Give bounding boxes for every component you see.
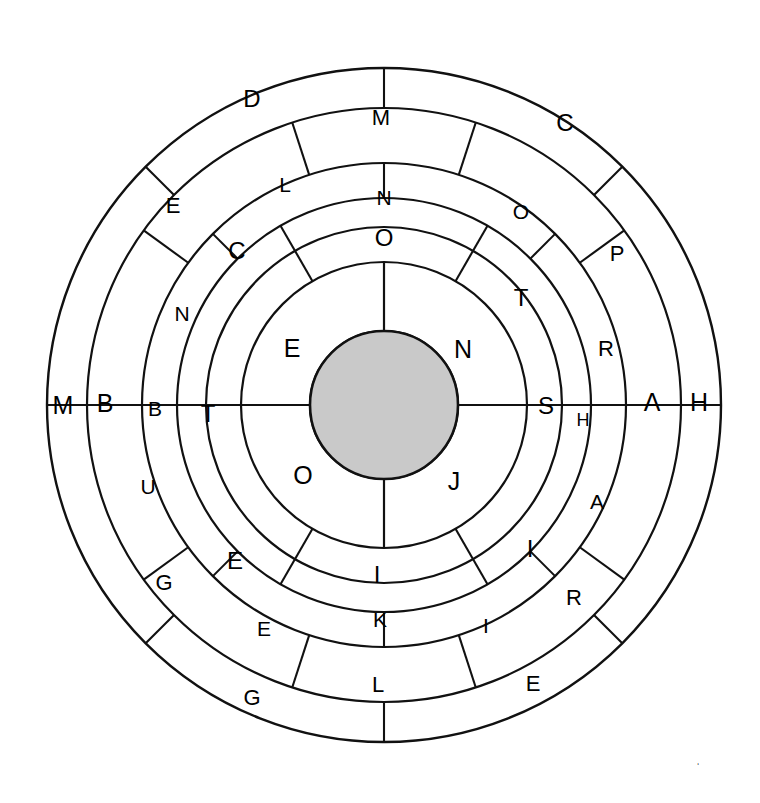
ring-2-divider: [456, 226, 488, 281]
ring4-ul-label: E: [166, 193, 181, 218]
ring-4-divider: [292, 123, 309, 175]
ring2-ll-label: E: [227, 547, 243, 574]
ring1-se-label: J: [448, 467, 461, 495]
ring2-lr-label: I: [527, 535, 534, 562]
ring2-bottom-label: I: [374, 561, 381, 588]
ring4-ll-label: G: [155, 570, 172, 595]
ring-2-divider: [456, 529, 488, 584]
corner-tick-mark: ˈ: [696, 761, 700, 773]
ring4-top-label: M: [372, 105, 390, 130]
ring3-bottom-label: K: [373, 608, 387, 631]
ring4-br-label: E: [526, 671, 541, 696]
ring-2-divider: [281, 529, 313, 584]
ring3-ur-label: O: [513, 200, 529, 223]
ring1-ne-label: N: [454, 335, 472, 363]
ring3-ll-label: U: [140, 475, 155, 498]
ring-2-divider: [281, 226, 313, 281]
ring5-ul-label: D: [243, 85, 260, 112]
ring3-lr-label: I: [483, 614, 489, 637]
ring-5-divider: [146, 167, 174, 195]
ring5-ur-label: C: [556, 109, 573, 136]
ring4-lr-label: R: [566, 585, 582, 610]
ring-3-divider: [530, 551, 555, 576]
ring2-right-label: S: [538, 392, 554, 419]
ring4-left-label: B: [97, 389, 114, 417]
ring2-ur-label: T: [514, 284, 529, 311]
ring-4-divider: [459, 635, 476, 687]
ring-diagram: ONMTSBHBAMHENOJIKLTCEIOLNUEIAPREGREGDC: [0, 0, 760, 803]
center-core: [310, 331, 458, 479]
ring1-nw-label: E: [284, 334, 301, 362]
ring3-ll2-label: E: [257, 617, 271, 640]
ring-4-divider: [580, 547, 624, 579]
ring5-left-label: M: [53, 391, 74, 419]
ring-4-divider: [292, 635, 309, 687]
ring2-ul-label: C: [228, 237, 245, 264]
ring4-ur2-label: R: [598, 336, 614, 361]
ring1-sw-label: O: [293, 461, 312, 489]
ring-4-divider: [144, 230, 188, 262]
ring4-right-label: A: [644, 388, 661, 416]
ring4-bottom-label: L: [372, 672, 384, 697]
ring-5-divider: [594, 167, 622, 195]
ring-5-divider: [146, 615, 174, 643]
core-group: [310, 331, 458, 479]
ring3-ul2-label: N: [174, 302, 189, 325]
ring3-lr2-label: A: [590, 490, 604, 513]
ring-3-divider: [530, 234, 555, 259]
ring5-right-label: H: [690, 388, 708, 416]
ring3-right-label: H: [577, 410, 590, 430]
ring3-ul-label: L: [279, 173, 291, 196]
ring-4-divider: [459, 123, 476, 175]
ring2-left-label: T: [201, 400, 216, 427]
ring4-ur-label: P: [610, 241, 625, 266]
figure-canvas: ONMTSBHBAMHENOJIKLTCEIOLNUEIAPREGREGDC ˈ: [0, 0, 760, 803]
ring3-left-label: B: [148, 397, 162, 420]
ring3-top-label: N: [376, 186, 391, 209]
ring4-bl-label: G: [243, 685, 260, 710]
ring2-top-label: O: [375, 224, 394, 251]
ring-5-divider: [594, 615, 622, 643]
